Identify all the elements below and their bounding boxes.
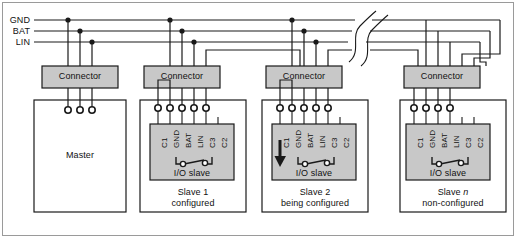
daisy-chain-wires xyxy=(206,20,500,66)
slave2-pin-label-bat: BAT xyxy=(307,133,315,148)
slave1-caption-line2: configured xyxy=(140,198,246,208)
bus-drop-wires xyxy=(68,20,450,66)
bus-lines xyxy=(34,20,500,42)
slave1-pin-label-c2: C2 xyxy=(221,138,229,148)
pin-ring xyxy=(411,105,417,111)
bus-label-bat: BAT xyxy=(0,26,30,36)
slave1-caption-line1: Slave 1 xyxy=(140,187,246,197)
pin-ring xyxy=(155,105,161,111)
slave2-pin-label-gnd: GND xyxy=(295,130,303,148)
pin-ring xyxy=(325,105,331,111)
slave2-caption-line1: Slave 2 xyxy=(262,187,368,197)
slaven-pin-label-lin: LIN xyxy=(453,135,461,148)
pin-ring xyxy=(301,105,307,111)
pin-ring xyxy=(203,105,209,111)
bus-break-symbol xyxy=(349,11,388,66)
slaven-io-slave-label: I/O slave xyxy=(406,168,490,178)
slave1-pin-label-bat: BAT xyxy=(185,133,193,148)
connector-label-master: Connector xyxy=(42,71,118,81)
slave1-pin-label-c3: C3 xyxy=(209,138,217,148)
slave1-io-slave-label: I/O slave xyxy=(150,168,234,178)
slaven-pin-label-c3: C3 xyxy=(465,138,473,148)
pin-ring xyxy=(447,105,453,111)
slave1-pin-label-gnd: GND xyxy=(173,130,181,148)
slaven-pin-label-gnd: GND xyxy=(429,130,437,148)
bus-label-lin: LIN xyxy=(0,37,30,47)
pin-ring xyxy=(65,107,71,113)
pin-ring xyxy=(77,107,83,113)
chain-wire-5 xyxy=(474,31,490,66)
slaven-pin-label-bat: BAT xyxy=(441,133,449,148)
connector-label-slave1: Connector xyxy=(144,71,220,81)
pin-ring xyxy=(435,105,441,111)
connector-label-slave2: Connector xyxy=(266,71,342,81)
slave2-pin-label-c1: C1 xyxy=(283,138,291,148)
pin-ring xyxy=(167,105,173,111)
master-body-label: Master xyxy=(34,150,126,160)
pin-ring xyxy=(277,105,283,111)
slaven-caption-line2: non-configured xyxy=(400,198,506,208)
slaven-index-italic: n xyxy=(463,187,468,197)
slave1-pin-label-lin: LIN xyxy=(197,135,205,148)
slave2-caption-line2: being configured xyxy=(262,198,368,208)
slaven-caption-prefix: Slave xyxy=(438,187,464,197)
pin-ring xyxy=(191,105,197,111)
slaven-pin-label-c1: C1 xyxy=(417,138,425,148)
slave2-pin-label-lin: LIN xyxy=(319,135,327,148)
slave2-pin-label-c3: C3 xyxy=(331,138,339,148)
slaven-pin-label-c2: C2 xyxy=(477,138,485,148)
slaven-caption-line1: Slave n xyxy=(400,187,506,197)
chain-wire-3 xyxy=(370,50,418,66)
connector-label-slaven: Connector xyxy=(404,71,480,81)
pin-ring xyxy=(423,105,429,111)
pin-ring xyxy=(179,105,185,111)
master-pin-rings xyxy=(65,107,95,113)
slave1-pin-label-c1: C1 xyxy=(161,138,169,148)
pin-ring xyxy=(289,105,295,111)
pin-ring xyxy=(313,105,319,111)
slave2-pin-label-c2: C2 xyxy=(343,138,351,148)
pin-ring xyxy=(89,107,95,113)
bus-label-gnd: GND xyxy=(0,15,30,25)
diagram-canvas: GND BAT LIN Connector Connector Connecto… xyxy=(0,0,516,238)
node-master xyxy=(34,66,126,212)
chain-wire-2 xyxy=(328,50,352,66)
chain-wire-1 xyxy=(206,50,300,66)
slave2-io-slave-label: I/O slave xyxy=(272,168,356,178)
chain-wire-4 xyxy=(462,20,500,66)
